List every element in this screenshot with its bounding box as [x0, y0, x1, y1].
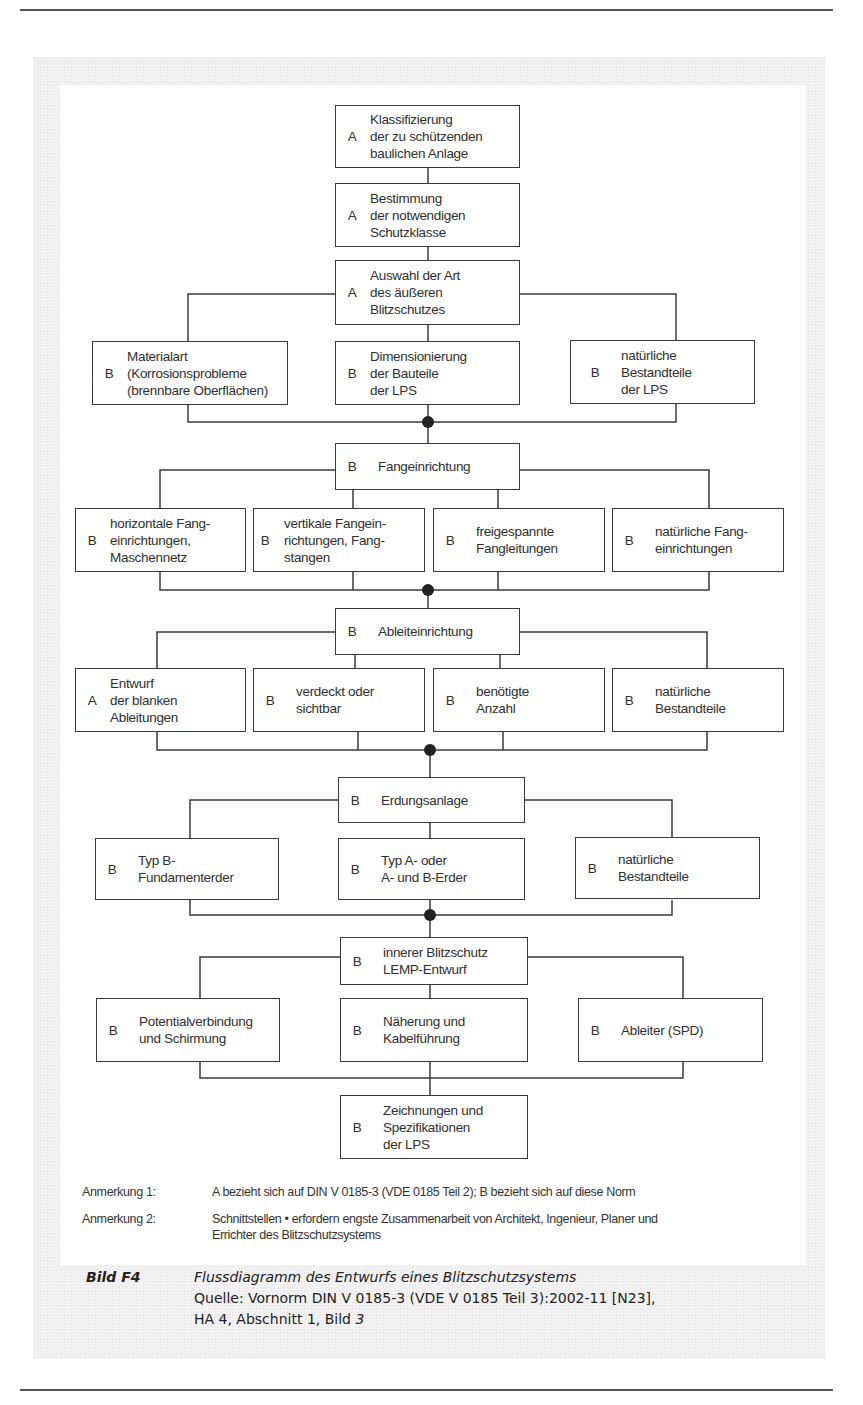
box-text: Typ B- Fundamenterder [126, 852, 234, 886]
box-dimensionierung: B Dimensionierung der Bauteile der LPS [335, 341, 520, 405]
box-text: Ableiteinrichtung [366, 623, 473, 640]
box-code: B [341, 953, 371, 970]
box-text: vertikale Fangein- richtungen, Fang- sta… [274, 515, 386, 566]
figure-description: Flussdiagramm des Entwurfs eines Blitzsc… [194, 1267, 814, 1330]
box-bestimmung: A Bestimmung der notwendigen Schutzklass… [335, 183, 520, 247]
box-fangeinrichtung: B Fangeinrichtung [335, 443, 520, 490]
box-code: B [97, 1022, 127, 1039]
box-code: A [336, 128, 366, 145]
box-text: Bestimmung der notwendigen Schutzklasse [366, 190, 465, 241]
box-naeherung: B Näherung und Kabelführung [340, 998, 528, 1062]
box-code: B [254, 692, 284, 709]
box-text: natürliche Bestandteile der LPS [617, 347, 692, 398]
box-code: B [336, 458, 366, 475]
box-code: B [339, 861, 369, 878]
box-code: B [254, 532, 274, 549]
box-text: Auswahl der Art des äußeren Blitzschutze… [366, 267, 460, 318]
box-natuerliche-erd: B natürliche Bestandteile [575, 837, 760, 899]
figure-source-line-2: HA 4, Abschnitt 1, Bild 3 [194, 1309, 814, 1330]
note-2: Anmerkung 2: Schnittstellen • erfordern … [82, 1211, 802, 1247]
box-text: Entwurf der blanken Ableitungen [106, 675, 178, 726]
box-text: Materialart (Korrosionsprobleme (brennba… [123, 348, 268, 399]
box-code: A [336, 207, 366, 224]
box-code: B [96, 861, 126, 878]
box-code: B [434, 692, 464, 709]
box-verdeckt: B verdeckt oder sichtbar [253, 668, 425, 732]
box-anzahl: B benötigte Anzahl [433, 668, 605, 732]
box-code: B [93, 365, 123, 382]
box-code: B [613, 692, 643, 709]
box-code: B [336, 623, 366, 640]
box-horizontale: B horizontale Fang- einrichtungen, Masch… [75, 508, 246, 572]
box-ableiteinrichtung: B Ableiteinrichtung [335, 608, 520, 655]
box-code: A [76, 692, 106, 709]
figure-source-line-1: Quelle: Vornorm DIN V 0185-3 (VDE V 0185… [194, 1288, 814, 1309]
box-text: benötigte Anzahl [464, 683, 529, 717]
source-figure-number: 3 [355, 1311, 364, 1327]
box-materialart: B Materialart (Korrosionsprobleme (brenn… [92, 341, 288, 405]
box-typ-b: B Typ B- Fundamenterder [95, 838, 279, 900]
box-text: Typ A- oder A- und B-Erder [369, 852, 467, 886]
figure-id: Bild F4 [86, 1267, 140, 1288]
source-prefix: HA 4, Abschnitt 1, Bild [194, 1311, 355, 1327]
box-text: horizontale Fang- einrichtungen, Maschen… [106, 515, 210, 566]
box-text: natürliche Bestandteile [643, 683, 726, 717]
box-code: B [76, 532, 106, 549]
box-freigespannte: B freigespannte Fangleitungen [433, 508, 605, 572]
box-text: Dimensionierung der Bauteile der LPS [366, 348, 467, 399]
box-text: Näherung und Kabelführung [371, 1013, 465, 1047]
box-auswahl: A Auswahl der Art des äußeren Blitzschut… [335, 260, 520, 325]
note-1: Anmerkung 1: A bezieht sich auf DIN V 01… [82, 1184, 802, 1202]
box-natuerliche-fang: B natürliche Fang- einrichtungen [612, 508, 784, 572]
note-text: A bezieht sich auf DIN V 0185-3 (VDE 018… [212, 1184, 812, 1200]
box-entwurf: A Entwurf der blanken Ableitungen [75, 668, 246, 732]
note-text: Schnittstellen • erfordern engste Zusamm… [212, 1211, 812, 1243]
box-natuerliche-abl: B natürliche Bestandteile [612, 668, 784, 732]
box-text: natürliche Bestandteile [606, 851, 689, 885]
box-text: Potentialverbindung und Schirmung [127, 1013, 253, 1047]
box-text: Erdungsanlage [369, 792, 468, 809]
box-text: Klassifizierung der zu schützenden bauli… [366, 111, 482, 162]
box-code: B [576, 860, 606, 877]
box-code: B [434, 532, 464, 549]
box-natuerliche-lps: B natürliche Bestandteile der LPS [570, 340, 755, 404]
box-zeichnungen: B Zeichnungen und Spezifikationen der LP… [340, 1095, 528, 1159]
box-typ-a: B Typ A- oder A- und B-Erder [338, 838, 525, 900]
box-erdungsanlage: B Erdungsanlage [338, 777, 525, 823]
note-label: Anmerkung 1: [82, 1184, 212, 1200]
note-label: Anmerkung 2: [82, 1211, 212, 1227]
box-code: B [579, 1022, 609, 1039]
box-ableiter-spd: B Ableiter (SPD) [578, 998, 763, 1062]
box-code: B [341, 1119, 371, 1136]
box-klassifizierung: A Klassifizierung der zu schützenden bau… [335, 105, 520, 168]
box-code: B [571, 364, 617, 381]
box-code: B [341, 1022, 371, 1039]
box-text: Zeichnungen und Spezifikationen der LPS [371, 1102, 483, 1153]
box-text: Fangeinrichtung [366, 458, 470, 475]
box-code: B [336, 365, 366, 382]
box-code: A [336, 284, 366, 301]
box-text: innerer Blitzschutz LEMP-Entwurf [371, 944, 488, 978]
box-vertikale: B vertikale Fangein- richtungen, Fang- s… [253, 508, 425, 572]
box-text: natürliche Fang- einrichtungen [643, 523, 748, 557]
figure-title: Flussdiagramm des Entwurfs eines Blitzsc… [194, 1267, 814, 1288]
box-text: freigespannte Fangleitungen [464, 523, 558, 557]
box-code: B [339, 792, 369, 809]
bottom-rule [20, 1389, 833, 1391]
box-potentialverbindung: B Potentialverbindung und Schirmung [96, 998, 280, 1062]
box-text: verdeckt oder sichtbar [284, 683, 374, 717]
box-code: B [613, 532, 643, 549]
box-text: Ableiter (SPD) [609, 1022, 703, 1039]
box-innerer-blitzschutz: B innerer Blitzschutz LEMP-Entwurf [340, 937, 528, 985]
